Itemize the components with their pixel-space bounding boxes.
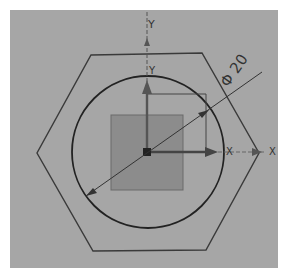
wcs-x-label: X <box>269 146 276 157</box>
dimension-arrow-upper-icon <box>198 110 209 118</box>
x-axis-arrow-icon <box>205 147 218 157</box>
csys-x-label: X <box>226 146 233 157</box>
wcs-y-label: Y <box>147 18 155 31</box>
wcs-y-arrow-icon <box>144 38 150 46</box>
sketch-canvas[interactable]: Y Y X X Φ 20 <box>0 0 287 280</box>
y-axis-arrow-icon <box>142 80 152 94</box>
csys-y-label: Y <box>148 65 156 76</box>
diameter-dimension-text[interactable]: Φ 20 <box>217 51 252 91</box>
